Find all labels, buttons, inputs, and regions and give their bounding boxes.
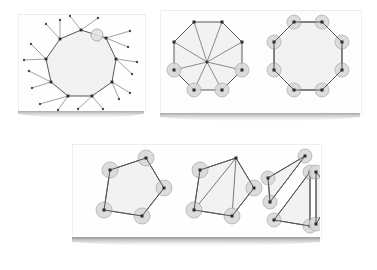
- figure-pentagon-steps: [72, 144, 320, 238]
- figure-pentagon-interior-angles: [96, 150, 172, 224]
- fan-center-point: [205, 60, 208, 63]
- card-shadow: [160, 113, 360, 130]
- octagon-fan-shape: [174, 22, 242, 90]
- figure-octagon-fan-triangulation: [167, 21, 249, 98]
- triangle-right: [309, 165, 320, 231]
- triangle-right-shape: [316, 172, 320, 224]
- figure-octagon-pair: [160, 10, 360, 114]
- panel-polygon-with-exterior-spikes: [18, 14, 144, 112]
- panel-pentagon-triangulation: [72, 144, 320, 238]
- figure-octagon-interior-angles: [267, 15, 349, 97]
- figure-nonagon-with-rays: [18, 14, 144, 112]
- nonagon-shape: [46, 30, 116, 96]
- panel-octagon-pair: [160, 10, 360, 114]
- figure-separated-triangles: [261, 149, 320, 233]
- figure-pentagon-with-diagonals: [186, 157, 262, 225]
- card-shadow: [18, 111, 144, 127]
- card-shadow: [72, 237, 320, 255]
- figure-stage: [0, 0, 377, 270]
- highlight-angle-circle: [91, 29, 103, 41]
